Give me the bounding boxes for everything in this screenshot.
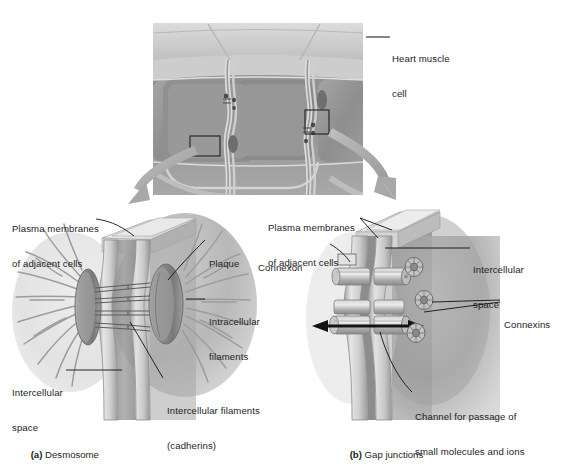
panel-b-caption: (b) Gap junctions	[339, 437, 423, 471]
panel-a-caption: (a) Desmosome	[20, 437, 99, 471]
panel-b-channel-label: Channel for passage of small molecules a…	[415, 388, 525, 471]
panel-a-plasma-membranes-label: Plasma membranes of adjacent cells	[12, 200, 99, 293]
panel-a-intracellular-filaments-label: Intracellular filaments	[209, 293, 260, 386]
panel-b-caption-letter: (b)	[350, 449, 362, 460]
desmosome-spot	[317, 90, 327, 110]
panel-a-plaque-label: Plaque	[209, 235, 239, 293]
heart-muscle-cell-label: Heart muscle cell	[392, 30, 450, 123]
micrograph-image	[153, 23, 368, 196]
figure-root: Heart muscle cell Plasma membranes of ad…	[0, 0, 563, 471]
panel-a-caption-text: Desmosome	[45, 449, 99, 460]
panel-b-connexon-label: Connexon	[258, 239, 303, 297]
panel-b-connexins-label: Connexins	[504, 296, 550, 354]
panel-a-caption-letter: (a)	[31, 449, 43, 460]
panel-b-caption-text: Gap junctions	[365, 449, 424, 460]
panel-a-intercellular-filaments-label: Intercellular filaments (cadherins)	[167, 382, 260, 471]
desmosome-spot	[228, 135, 238, 153]
